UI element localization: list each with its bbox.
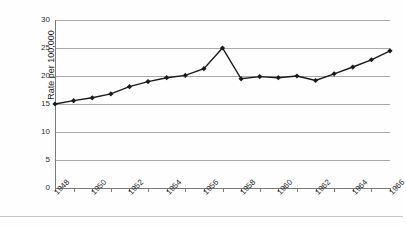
x-axis-tick-mark: [223, 188, 224, 192]
data-point-marker: [332, 71, 337, 76]
data-point-marker: [387, 48, 392, 53]
data-point-marker: [294, 73, 299, 78]
x-axis-tick-mark: [260, 188, 261, 192]
x-axis-tick-mark: [74, 188, 75, 192]
x-axis-tick-mark: [148, 188, 149, 192]
data-point-marker: [369, 57, 374, 62]
x-axis-tick-mark: [334, 188, 335, 192]
data-point-marker: [313, 78, 318, 83]
x-axis-tick-mark: [185, 188, 186, 192]
data-point-marker: [350, 64, 355, 69]
data-point-marker: [108, 91, 113, 96]
series-line: [55, 48, 390, 104]
data-point-marker: [52, 101, 57, 106]
data-point-marker: [90, 95, 95, 100]
x-axis-tick-mark: [111, 188, 112, 192]
data-point-marker: [127, 84, 132, 89]
data-point-marker: [183, 73, 188, 78]
data-point-marker: [257, 74, 262, 79]
data-point-marker: [145, 79, 150, 84]
data-point-marker: [276, 75, 281, 80]
data-point-marker: [164, 75, 169, 80]
data-point-marker: [71, 98, 76, 103]
series-markers: [52, 45, 392, 106]
x-axis-tick-mark: [297, 188, 298, 192]
x-axis-tick-mark: [371, 188, 372, 192]
